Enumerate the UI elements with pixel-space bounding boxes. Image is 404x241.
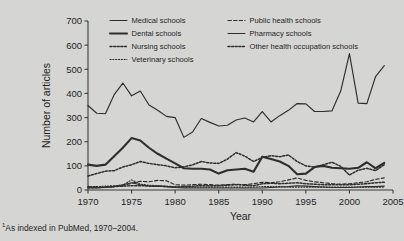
x-tick-label: 1995	[295, 196, 316, 207]
x-tick-label: 1975	[121, 196, 142, 207]
chart-footnote: 1As indexed in PubMed, 1970–2004.	[2, 222, 138, 233]
y-tick-label: 0	[77, 184, 82, 195]
legend-label: Public health schools	[250, 16, 322, 25]
legend-item-dental-schools[interactable]: Dental schools	[110, 29, 182, 38]
legend-item-medical-schools[interactable]: Medical schools	[110, 16, 186, 25]
x-tick-label: 1990	[252, 196, 273, 207]
legend-label: Other health occupation schools	[250, 42, 359, 51]
y-axis-title: Number of articles	[40, 63, 52, 148]
legend-item-nursing-schools[interactable]: Nursing schools	[110, 42, 186, 51]
legend-item-pharmacy-schools[interactable]: Pharmacy schools	[228, 29, 312, 38]
x-axis-title: Year	[230, 210, 252, 222]
line-chart: 0100200300400500600700197019751980198519…	[0, 0, 404, 241]
legend-label: Dental schools	[132, 29, 182, 38]
footnote-text: As indexed in PubMed, 1970–2004.	[5, 223, 138, 233]
legend-label: Medical schools	[132, 16, 186, 25]
x-tick-label: 2005	[382, 196, 403, 207]
y-tick-label: 200	[66, 136, 82, 147]
chart-figure: 0100200300400500600700197019751980198519…	[0, 0, 404, 241]
legend-item-veterinary-schools[interactable]: Veterinary schools	[110, 55, 194, 64]
y-tick-label: 500	[66, 64, 82, 75]
legend-label: Veterinary schools	[132, 55, 194, 64]
series-line-dental-schools	[88, 138, 384, 174]
series-line-medical-schools	[88, 54, 384, 138]
y-tick-label: 600	[66, 40, 82, 51]
x-tick-label: 1970	[77, 196, 98, 207]
x-tick-label: 2000	[339, 196, 360, 207]
legend-item-public-health-schools[interactable]: Public health schools	[228, 16, 321, 25]
y-tick-label: 400	[66, 88, 82, 99]
legend-label: Pharmacy schools	[250, 29, 312, 38]
legend-label: Nursing schools	[132, 42, 186, 51]
legend-item-other-health-occupation-schools[interactable]: Other health occupation schools	[228, 42, 358, 51]
y-tick-label: 700	[66, 15, 82, 26]
x-tick-label: 1980	[165, 196, 186, 207]
y-tick-label: 300	[66, 112, 82, 123]
y-tick-label: 100	[66, 160, 82, 171]
series-line-nursing-schools	[88, 153, 384, 176]
x-tick-label: 1985	[208, 196, 229, 207]
